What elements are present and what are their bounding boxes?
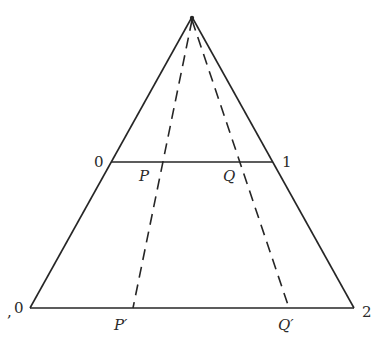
label-bottom-comma: ,	[7, 303, 12, 321]
label-bottom-2: 2	[362, 303, 372, 321]
label-p-prime: P′	[113, 316, 128, 334]
ray-p-dashed	[133, 20, 192, 308]
label-p: P	[138, 167, 150, 185]
label-q: Q	[223, 167, 235, 185]
label-q-prime: Q′	[278, 316, 294, 334]
label-middle-0: 0	[94, 153, 104, 171]
apex-point	[190, 16, 194, 20]
label-middle-1: 1	[282, 153, 292, 171]
projective-diagram: 0 1 P Q , 0 2 P′ Q′	[0, 0, 376, 339]
label-bottom-0: 0	[14, 299, 24, 317]
